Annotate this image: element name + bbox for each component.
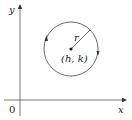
y-axis-label: y (8, 4, 15, 15)
circle-diagram: y x 0 r (h, k) (0, 0, 132, 120)
center-point (69, 47, 72, 50)
center-label: (h, k) (61, 53, 88, 64)
x-axis-label: x (118, 104, 124, 115)
origin-label: 0 (9, 104, 15, 115)
